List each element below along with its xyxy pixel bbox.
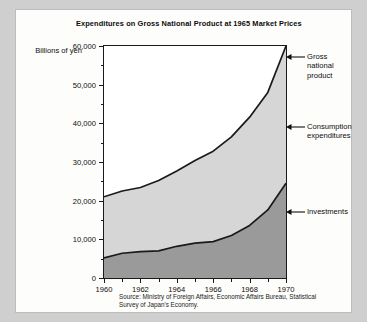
y-tick-label: 40,000 <box>73 119 96 128</box>
source-note: Source: Ministry of Foreign Affairs, Eco… <box>119 293 334 308</box>
x-tick <box>140 278 141 283</box>
y-tick <box>99 85 104 86</box>
y-tick <box>99 123 104 124</box>
x-tick-minor <box>231 278 232 282</box>
chart-figure: Expenditures on Gross National Product a… <box>16 10 351 312</box>
x-tick <box>286 278 287 283</box>
y-tick-minor <box>101 104 105 105</box>
x-tick <box>213 278 214 283</box>
y-tick-label: 20,000 <box>73 196 96 205</box>
y-tick-minor <box>101 65 105 66</box>
y-tick-label: 30,000 <box>73 158 96 167</box>
y-tick-minor <box>101 220 105 221</box>
x-tick-minor <box>268 278 269 282</box>
y-tick <box>99 162 104 163</box>
x-tick <box>177 278 178 283</box>
annotation-consumption-expenditures: Consumption expenditures <box>307 122 352 141</box>
x-tick <box>104 278 105 283</box>
x-tick-minor <box>122 278 123 282</box>
stacked-area-chart <box>104 46 286 278</box>
x-tick-minor <box>159 278 160 282</box>
x-tick-minor <box>195 278 196 282</box>
y-tick-minor <box>101 259 105 260</box>
chart-title: Expenditures on Gross National Product a… <box>76 19 306 28</box>
y-tick-label: 60,000 <box>73 42 96 51</box>
plot-area: 010,00020,00030,00040,00050,00060,000 19… <box>103 45 287 279</box>
y-tick-label: 10,000 <box>73 235 96 244</box>
y-tick <box>99 201 104 202</box>
y-tick-minor <box>101 181 105 182</box>
y-tick <box>99 46 104 47</box>
y-tick <box>99 239 104 240</box>
plot-inner <box>104 46 286 278</box>
y-tick-label: 50,000 <box>73 80 96 89</box>
annotation-investments: Investments <box>307 207 348 216</box>
x-tick-label: 1960 <box>96 285 113 294</box>
x-tick <box>250 278 251 283</box>
y-tick-minor <box>101 143 105 144</box>
y-tick-label: 0 <box>92 274 96 283</box>
annotation-arrows <box>278 40 312 240</box>
